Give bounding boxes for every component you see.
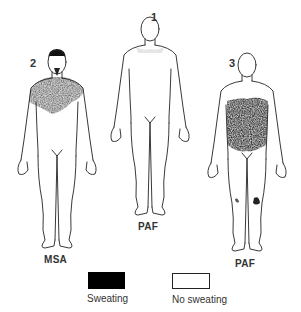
legend-no-sweating-label: No sweating	[172, 294, 227, 305]
legend-sweating-swatch	[88, 272, 125, 289]
figure-3-body	[208, 53, 286, 251]
figure-1-body	[111, 17, 189, 215]
chin-sweat	[54, 68, 60, 76]
knee-sweat	[253, 197, 260, 204]
figure-2-caption: MSA	[44, 254, 67, 265]
body-diagram	[0, 0, 301, 312]
figure-3-number: 3	[229, 57, 235, 69]
trunk-sweat	[227, 97, 268, 151]
legend-no-sweating-swatch	[172, 273, 210, 289]
knee-sweat-small	[235, 198, 239, 202]
figure-2-number: 2	[30, 57, 36, 69]
figure-1-caption: PAF	[138, 221, 158, 232]
figure-2-body	[18, 49, 96, 248]
head-sweat	[48, 49, 66, 60]
figure-3-caption: PAF	[235, 258, 255, 269]
faint-residual-sweat	[136, 47, 164, 53]
figure-1-number: 1	[151, 11, 157, 23]
legend-sweating-label: Sweating	[87, 293, 128, 304]
